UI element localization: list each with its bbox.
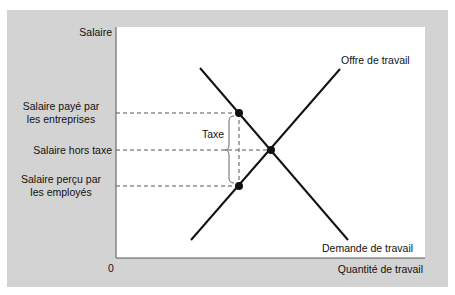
paid-wage-label: Salaire payé par les entreprises [10,100,112,126]
x-axis-label: Quantité de travail [300,263,423,276]
demand-label: Demande de travail [322,242,413,255]
received-wage-label-line1: Salaire perçu par [10,173,112,186]
equilibrium-point [267,146,275,154]
received-wage-label-line2: les employés [10,186,112,199]
received-wage-label: Salaire perçu par les employés [10,173,112,199]
demand-curve [200,68,348,240]
y-axis-label: Salaire [40,26,112,39]
supply-label: Offre de travail [341,54,410,67]
origin-label: 0 [108,262,114,275]
received-wage-point [235,182,243,190]
supply-curve [191,69,340,240]
tax-label: Taxe [202,128,224,141]
paid-wage-label-line1: Salaire payé par [10,100,112,113]
paid-wage-point [235,109,243,117]
pretax-wage-label: Salaire hors taxe [10,144,112,157]
paid-wage-label-line2: les entreprises [10,113,112,126]
